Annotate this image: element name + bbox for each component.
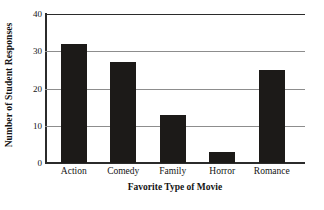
x-axis-title: Favorite Type of Movie — [45, 182, 305, 192]
bar-romance — [259, 70, 285, 163]
y-axis-title: Number of Student Responses — [0, 0, 18, 170]
y-tick-label-10: 10 — [18, 121, 42, 130]
x-tick-label-comedy: Comedy — [107, 166, 139, 176]
x-tick-label-romance: Romance — [254, 166, 290, 176]
y-tick-label-30: 30 — [18, 47, 42, 56]
bar-chart-figure: Number of Student Responses 010203040 Ac… — [0, 0, 324, 210]
y-axis-title-text: Number of Student Responses — [4, 23, 14, 148]
x-axis-tick-labels: ActionComedyFamilyHorrorRomance — [45, 166, 305, 180]
y-tick-label-20: 20 — [18, 84, 42, 93]
bar-comedy — [110, 62, 136, 163]
y-tick-label-40: 40 — [18, 10, 42, 19]
bar-horror — [209, 152, 235, 163]
x-tick-label-action: Action — [61, 166, 87, 176]
bar-series — [45, 14, 305, 163]
bar-family — [160, 115, 186, 163]
bar-action — [61, 44, 87, 163]
x-tick-label-horror: Horror — [209, 166, 235, 176]
x-tick-label-family: Family — [159, 166, 186, 176]
plot-area — [45, 14, 305, 163]
y-axis-tick-labels: 010203040 — [18, 0, 42, 210]
y-tick-label-0: 0 — [18, 159, 42, 168]
